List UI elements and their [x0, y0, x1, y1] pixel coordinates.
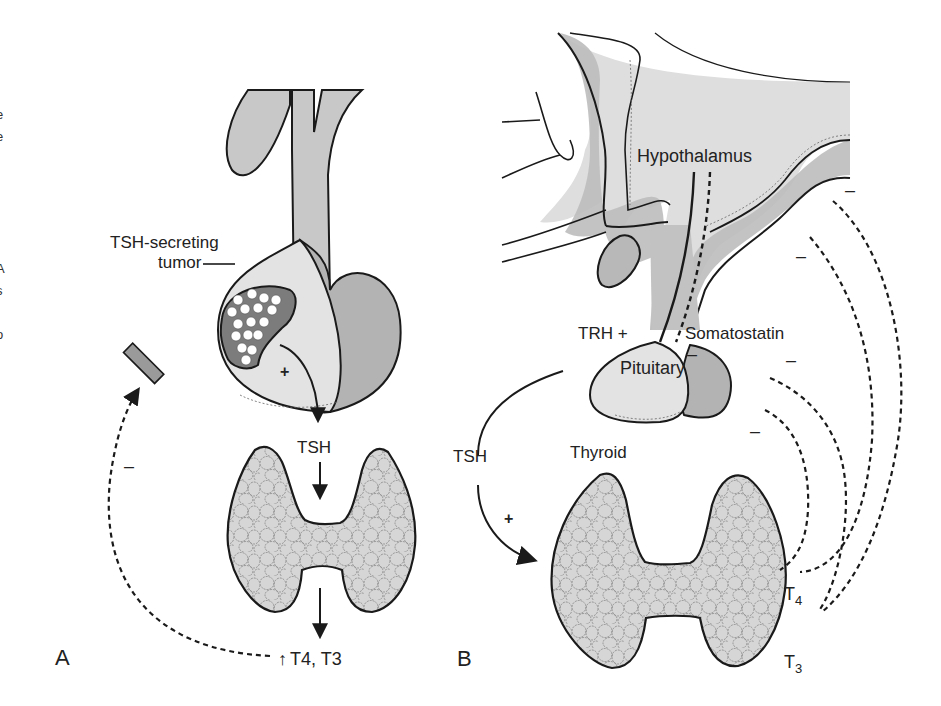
minus-sign-a: – [124, 456, 134, 476]
feedback-minus-4: – [750, 421, 760, 441]
tsh-label-b: TSH [453, 447, 487, 466]
anterior-pituitary-b [590, 342, 688, 422]
panel-label-b: B [457, 646, 472, 671]
panel-b: Hypothalamus TRH + Somatostatin – Pituit… [453, 33, 901, 676]
panel-label-a: A [55, 645, 70, 670]
feedback-minus-2: – [796, 246, 806, 266]
panel-a: TSH-secreting tumor + TSH ↑ T4, T3 – A [55, 90, 415, 670]
somatostatin-minus: – [687, 344, 697, 364]
tumor-label-line1: TSH-secreting [110, 233, 219, 252]
plus-sign-a: + [280, 363, 289, 380]
tsh-arc-upper [478, 371, 563, 455]
plus-sign-b: + [504, 510, 513, 527]
negative-feedback-arcs [765, 201, 901, 612]
feedback-minus-3: – [786, 350, 796, 370]
median-eminence [598, 235, 640, 287]
blocked-feedback-bar [123, 343, 163, 383]
feedback-minus-1: – [845, 180, 855, 200]
somatostatin-label: Somatostatin [685, 324, 784, 343]
increase-arrow-icon: ↑ [278, 649, 287, 669]
output-hormones-a: T4, T3 [290, 649, 342, 669]
pituitary-label: Pituitary [620, 358, 685, 378]
t3-label-b: T3 [784, 652, 802, 676]
thyroid-label: Thyroid [570, 443, 627, 462]
hypothalamus-label: Hypothalamus [637, 146, 752, 166]
tsh-label-a: TSH [297, 438, 331, 457]
thyroid-gland-a [228, 447, 416, 612]
tumor-label-line2: tumor [158, 253, 202, 272]
trh-label: TRH + [578, 324, 628, 343]
thyroid-axis-diagram: TSH-secreting tumor + TSH ↑ T4, T3 – A [0, 0, 941, 706]
thyroid-gland-b [552, 474, 786, 668]
t4-label-b: T4 [784, 584, 802, 608]
